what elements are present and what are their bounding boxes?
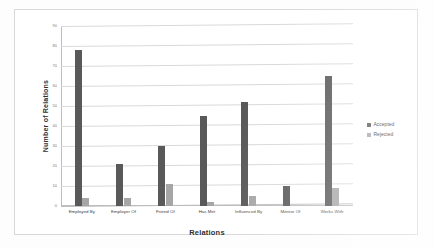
x-axis-category-label: Works With xyxy=(306,210,358,214)
y-axis-tick-label: 20 xyxy=(41,164,57,168)
bar-rejected xyxy=(166,184,173,206)
bar-accepted xyxy=(325,76,332,206)
y-axis-tick-label: 80 xyxy=(41,44,57,48)
bar-group xyxy=(75,26,90,206)
y-axis-tick-label: 50 xyxy=(41,104,57,108)
bar-rejected xyxy=(82,198,89,206)
bar-group xyxy=(200,26,215,206)
legend-item[interactable]: Rejected xyxy=(367,132,429,137)
figure-frame: Number of Relations 9080706050403020100 … xyxy=(14,9,418,235)
legend-swatch-rejected-icon xyxy=(367,133,371,137)
y-axis-tick-label: 10 xyxy=(41,184,57,188)
y-axis-tick-label: 90 xyxy=(41,24,57,28)
bar-group xyxy=(283,26,298,206)
bar-accepted xyxy=(75,50,82,206)
bar-accepted xyxy=(283,186,290,206)
bar-accepted xyxy=(200,116,207,206)
bar-group xyxy=(158,26,173,206)
bar-accepted xyxy=(241,102,248,206)
legend-label: Rejected xyxy=(374,132,394,137)
bar-rejected xyxy=(207,202,214,206)
bar-accepted xyxy=(158,146,165,206)
legend-item[interactable]: Accepted xyxy=(367,122,429,127)
bar-group xyxy=(241,26,256,206)
bar-rejected xyxy=(124,198,131,206)
y-axis-tick-label: 60 xyxy=(41,84,57,88)
chart-legend: AcceptedRejected xyxy=(367,122,429,142)
bar-group xyxy=(116,26,131,206)
bar-accepted xyxy=(116,164,123,206)
y-axis-tick-label: 0 xyxy=(41,204,57,208)
bar-rejected xyxy=(332,188,339,206)
legend-swatch-accepted-icon xyxy=(367,123,371,127)
y-axis-tick-label: 70 xyxy=(41,64,57,68)
bar-group xyxy=(325,26,340,206)
chart-page: Number of Relations 9080706050403020100 … xyxy=(0,0,434,248)
legend-label: Accepted xyxy=(374,122,395,127)
x-axis-title: Relations xyxy=(61,228,353,237)
bar-rejected xyxy=(249,196,256,206)
y-axis-tick-label: 30 xyxy=(41,144,57,148)
y-axis-tick-label: 40 xyxy=(41,124,57,128)
plot-area xyxy=(61,26,353,206)
